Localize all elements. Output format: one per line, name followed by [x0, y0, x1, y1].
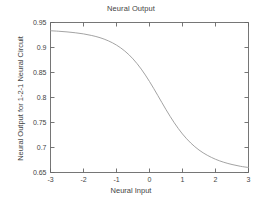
- plot-area: -3-2-101230.950.90.850.80.750.70.65: [0, 0, 262, 204]
- x-tick-label-4: 1: [181, 176, 185, 183]
- data-series-line: [51, 31, 249, 168]
- y-tick-label-2: 0.85: [33, 69, 47, 76]
- y-tick-label-4: 0.75: [33, 119, 47, 126]
- x-tick-label-1: -2: [80, 176, 86, 183]
- y-tick-label-5: 0.7: [37, 144, 47, 151]
- y-tick-label-3: 0.8: [37, 94, 47, 101]
- y-tick-label-6: 0.65: [33, 169, 47, 176]
- x-tick-label-2: -1: [113, 176, 119, 183]
- x-tick-label-3: 0: [148, 176, 152, 183]
- y-tick-label-1: 0.9: [37, 44, 47, 51]
- chart-figure: Neural Output Neural Output for 1-2-1 Ne…: [0, 0, 262, 204]
- x-tick-label-5: 2: [214, 176, 218, 183]
- x-tick-label-0: -3: [47, 176, 53, 183]
- y-tick-label-0: 0.95: [33, 19, 47, 26]
- x-tick-label-6: 3: [247, 176, 251, 183]
